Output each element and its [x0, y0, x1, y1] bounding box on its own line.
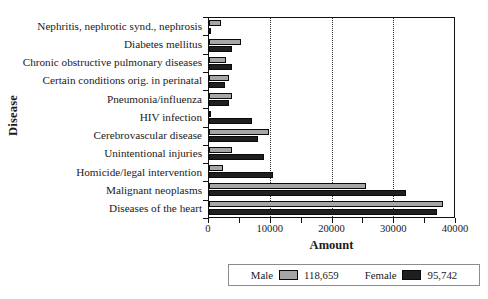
category-label: Malignant neoplasms: [22, 181, 206, 199]
bar-group: [209, 163, 454, 181]
bar-female: [209, 154, 264, 160]
bar-female: [209, 82, 225, 88]
category-label: Nephritis, nephrotic synd., nephrosis: [22, 17, 206, 35]
bar-chart: Disease Nephritis, nephrotic synd., neph…: [0, 0, 488, 299]
bar-female: [209, 172, 273, 178]
bar-male: [209, 57, 226, 63]
bar-male: [209, 183, 366, 189]
bar-female: [209, 46, 232, 52]
bar-female: [209, 64, 232, 70]
category-label: Unintentional injuries: [22, 145, 206, 163]
bar-group: [209, 108, 454, 126]
category-label: Diseases of the heart: [22, 200, 206, 218]
bar-female: [209, 100, 229, 106]
bar-group: [209, 199, 454, 217]
bar-female: [209, 28, 211, 34]
category-label: Pneumonia/influenza: [22, 90, 206, 108]
x-axis-tick-label: 40000: [442, 223, 468, 234]
bar-female: [209, 209, 437, 215]
bar-female: [209, 118, 252, 124]
bar-group: [209, 18, 454, 36]
bar-female: [209, 190, 406, 196]
category-axis-labels: Nephritis, nephrotic synd., nephrosisDia…: [22, 17, 206, 218]
legend-entry-female: Female95,742: [365, 269, 457, 281]
bar-group: [209, 145, 454, 163]
bar-group: [209, 127, 454, 145]
bar-male: [209, 165, 223, 171]
category-label: Diabetes mellitus: [22, 35, 206, 53]
bar-female: [209, 136, 258, 142]
bar-group: [209, 90, 454, 108]
plot-area: [208, 17, 455, 218]
x-axis-title: Amount: [208, 238, 455, 253]
legend-value: 95,742: [427, 269, 457, 281]
bar-group: [209, 54, 454, 72]
category-label: HIV infection: [22, 108, 206, 126]
bar-male: [209, 39, 241, 45]
x-axis-tick-label: 20000: [318, 223, 344, 234]
x-axis-tick-label: 10000: [257, 223, 283, 234]
bar-group: [209, 181, 454, 199]
bar-series-group: [209, 18, 454, 217]
bar-male: [209, 147, 232, 153]
legend-label: Female: [365, 269, 397, 281]
legend-swatch-male: [279, 270, 298, 280]
legend-label: Male: [251, 269, 273, 281]
bar-group: [209, 36, 454, 54]
bar-male: [209, 20, 221, 26]
legend-swatch-female: [402, 270, 421, 280]
bar-male: [209, 129, 269, 135]
legend: Male118,659Female95,742: [228, 264, 480, 286]
category-label: Homicide/legal intervention: [22, 163, 206, 181]
legend-value: 118,659: [304, 269, 339, 281]
bar-male: [209, 201, 443, 207]
x-axis-tick-label: 0: [205, 223, 210, 234]
category-label: Chronic obstructive pulmonary diseases: [22, 54, 206, 72]
bar-male: [209, 75, 229, 81]
legend-entry-male: Male118,659: [251, 269, 339, 281]
y-axis-title: Disease: [4, 70, 22, 160]
bar-male: [209, 111, 211, 117]
bar-group: [209, 72, 454, 90]
bar-male: [209, 93, 232, 99]
x-axis-tick-label: 30000: [380, 223, 406, 234]
category-label: Certain conditions orig. in perinatal: [22, 72, 206, 90]
category-label: Cerebrovascular disease: [22, 127, 206, 145]
y-axis-title-text: Disease: [6, 95, 21, 136]
x-axis-tick-labels: 010000200003000040000: [208, 223, 455, 237]
